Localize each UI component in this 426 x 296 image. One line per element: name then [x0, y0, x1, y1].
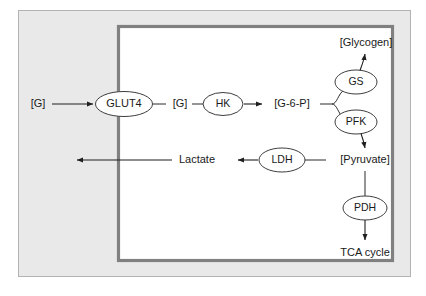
label-tca-cycle: TCA cycle — [340, 246, 390, 258]
label-glucose-in: [G] — [173, 97, 188, 109]
label-lactate: Lactate — [179, 153, 215, 165]
pathway-svg: GLUT4 [G] HK [G-6-P] GS [Glycogen] PFK [… — [0, 0, 426, 296]
label-pyruvate: [Pyruvate] — [340, 153, 390, 165]
label-glucose-out: [G] — [31, 97, 46, 109]
label-glycogen: [Glycogen] — [340, 36, 393, 48]
label-g6p: [G-6-P] — [274, 97, 309, 109]
label-ldh: LDH — [271, 153, 292, 165]
label-glut4: GLUT4 — [106, 97, 141, 109]
label-pdh: PDH — [354, 201, 376, 213]
cell-membrane — [119, 27, 393, 261]
label-hk: HK — [216, 97, 231, 109]
label-pfk: PFK — [346, 115, 366, 127]
pathway-diagram: GLUT4 [G] HK [G-6-P] GS [Glycogen] PFK [… — [0, 0, 426, 296]
label-gs: GS — [348, 75, 363, 87]
